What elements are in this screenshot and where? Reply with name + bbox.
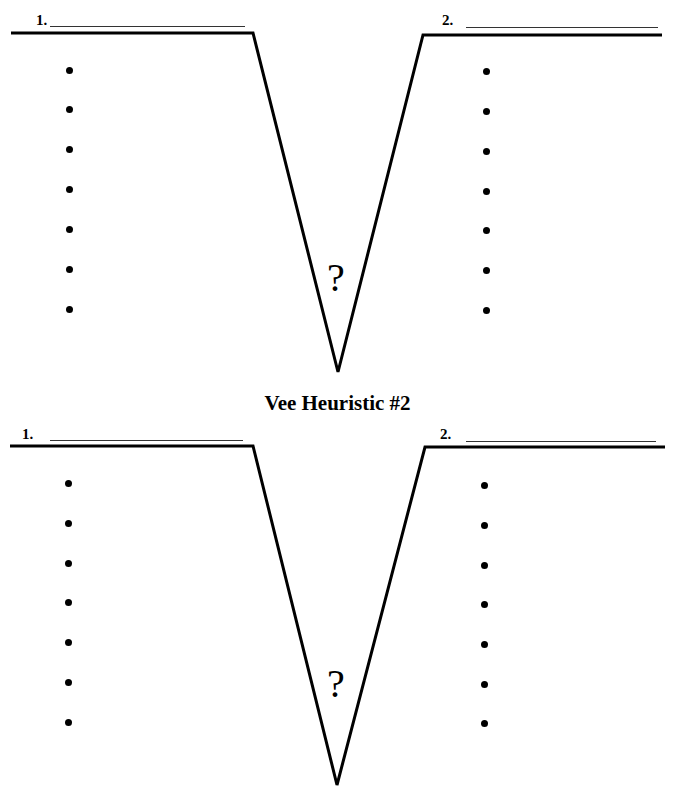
bullet: [481, 562, 488, 569]
bullet: [483, 307, 490, 314]
vee-2-outline: [10, 446, 665, 785]
vee-1-left-blank-line[interactable]: [50, 26, 245, 27]
vee-1-question-mark: ?: [327, 258, 345, 298]
bullet: [65, 679, 72, 686]
vee-1-left-label: 1.: [36, 13, 47, 28]
bullet: [481, 522, 488, 529]
bullet: [65, 520, 72, 527]
bullet: [66, 67, 73, 74]
bullet: [481, 681, 488, 688]
bullet: [483, 108, 490, 115]
bullet: [481, 601, 488, 608]
bullet: [483, 227, 490, 234]
bullet: [481, 482, 488, 489]
bullet: [66, 266, 73, 273]
bullet: [65, 560, 72, 567]
bullet: [65, 599, 72, 606]
vee-2-right-label: 2.: [440, 427, 451, 442]
vee-1-right-label: 2.: [442, 13, 453, 28]
bullet: [481, 641, 488, 648]
bullet: [483, 68, 490, 75]
bullet: [66, 106, 73, 113]
vee-2-title: Vee Heuristic #2: [0, 393, 675, 414]
bullet: [483, 148, 490, 155]
vee-2-question-mark: ?: [327, 664, 345, 704]
bullet: [65, 639, 72, 646]
bullet: [66, 186, 73, 193]
bullet: [65, 480, 72, 487]
vee-1-outline: [11, 33, 662, 372]
vee-2-right-blank-line[interactable]: [466, 441, 656, 442]
vee-2-left-blank-line[interactable]: [50, 440, 243, 441]
vee-2-left-label: 1.: [22, 427, 33, 442]
bullet: [66, 146, 73, 153]
bullet: [481, 720, 488, 727]
vee-1-right-blank-line[interactable]: [466, 27, 658, 28]
bullet: [66, 306, 73, 313]
bullet: [483, 267, 490, 274]
bullet: [483, 188, 490, 195]
bullet: [65, 719, 72, 726]
bullet: [66, 226, 73, 233]
